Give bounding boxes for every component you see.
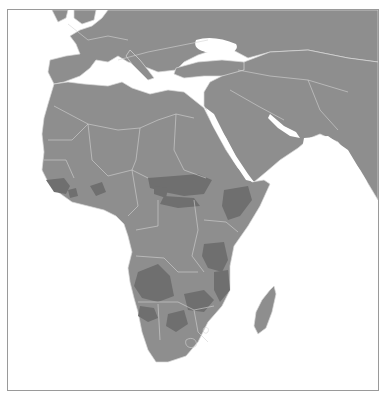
map-canvas[interactable] <box>8 10 378 390</box>
map-frame: Map of Africa with shaded regions <box>7 9 379 391</box>
madagascar-landmass <box>254 286 276 334</box>
